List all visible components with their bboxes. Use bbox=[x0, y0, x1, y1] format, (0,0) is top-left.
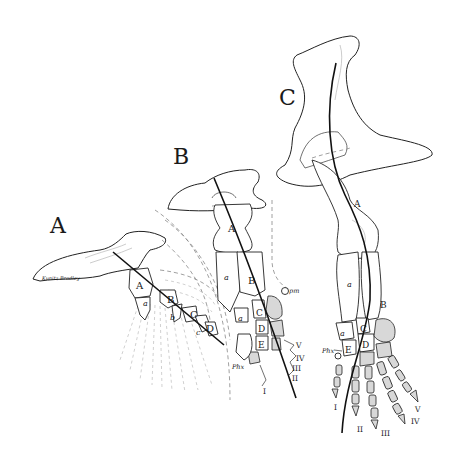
panel-b-label-a-upper: a bbox=[224, 273, 229, 282]
panel-b-label-a-lower: a bbox=[238, 314, 243, 323]
panel-c-digits bbox=[332, 355, 418, 429]
panel-a: A Kunitz Bradley A bbox=[33, 210, 230, 400]
panel-c-label-a-upper: a bbox=[347, 280, 352, 289]
panel-c-label-B: B bbox=[380, 300, 387, 310]
panel-b: B A a B C D E a pm Phx bbox=[162, 144, 305, 398]
panel-a-label-c: c bbox=[196, 328, 201, 337]
panel-c-label-A: A bbox=[353, 199, 361, 209]
panel-b-digit-III: III bbox=[292, 364, 301, 373]
anatomical-figure: A Kunitz Bradley A bbox=[0, 0, 461, 465]
panel-c-girdle bbox=[277, 36, 433, 186]
panel-b-letter: B bbox=[173, 144, 189, 169]
panel-c-digit-IV: IV bbox=[411, 417, 420, 426]
panel-c-digit-V: V bbox=[414, 405, 421, 414]
panel-c-bone-a bbox=[312, 160, 378, 258]
panel-c-letter: C bbox=[279, 85, 296, 110]
panel-a-label-a: a bbox=[143, 299, 148, 308]
panel-c: C A a B C D E a Phx bbox=[277, 36, 433, 438]
panel-c-label-D: D bbox=[362, 340, 369, 350]
panel-a-label-b: b bbox=[170, 313, 175, 322]
panel-b-label-C: C bbox=[256, 308, 263, 318]
panel-b-digit-I: I bbox=[263, 387, 266, 396]
panel-c-digit-II: II bbox=[357, 425, 363, 434]
panel-b-digit-V: V bbox=[295, 341, 302, 350]
panel-c-label-a-lower: a bbox=[340, 329, 345, 338]
panel-b-annotation-phx: Phx bbox=[231, 363, 245, 371]
panel-b-digit-II: II bbox=[292, 374, 298, 383]
panel-a-label-A: A bbox=[135, 280, 144, 291]
panel-b-label-D: D bbox=[258, 324, 265, 334]
panel-a-letter: A bbox=[49, 213, 67, 238]
panel-b-label-E: E bbox=[258, 340, 265, 350]
panel-c-digit-III: III bbox=[381, 429, 390, 438]
panel-c-digit-I: I bbox=[334, 403, 337, 412]
panel-c-annotation-phx: Phx bbox=[321, 347, 335, 355]
panel-c-label-E: E bbox=[345, 345, 352, 355]
panel-b-digit-IV: IV bbox=[296, 354, 305, 363]
artist-signature: Kunitz Bradley bbox=[41, 275, 80, 282]
panel-b-annotation-pm: pm bbox=[289, 287, 299, 295]
